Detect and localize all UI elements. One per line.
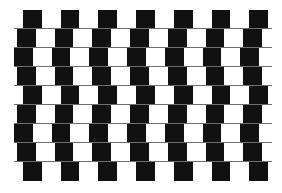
- black-tile: [174, 10, 193, 29]
- black-tile: [206, 105, 225, 124]
- black-tile: [17, 143, 36, 162]
- black-tile: [243, 29, 262, 48]
- black-tile: [203, 48, 222, 67]
- black-tile: [17, 67, 36, 86]
- black-tile: [168, 67, 187, 86]
- black-tile: [206, 67, 225, 86]
- black-tile: [203, 124, 222, 143]
- black-tile: [89, 48, 108, 67]
- black-tile: [130, 67, 149, 86]
- black-tile: [92, 67, 111, 86]
- black-tile: [240, 124, 259, 143]
- black-tile: [17, 105, 36, 124]
- black-tile: [249, 10, 268, 29]
- black-tile: [136, 86, 155, 105]
- black-tile: [17, 29, 36, 48]
- black-tile: [136, 162, 155, 181]
- black-tile: [174, 162, 193, 181]
- black-tile: [52, 124, 71, 143]
- black-tile: [23, 162, 42, 181]
- black-tile: [168, 29, 187, 48]
- black-tile: [14, 124, 33, 143]
- black-tile: [92, 29, 111, 48]
- black-tile: [165, 48, 184, 67]
- black-tile: [136, 10, 155, 29]
- black-tile: [14, 48, 33, 67]
- black-tile: [249, 162, 268, 181]
- black-tile: [168, 143, 187, 162]
- black-tile: [249, 86, 268, 105]
- black-tile: [130, 29, 149, 48]
- black-tile: [212, 86, 231, 105]
- black-tile: [243, 67, 262, 86]
- black-tile: [55, 67, 74, 86]
- black-tile: [23, 10, 42, 29]
- black-tile: [168, 105, 187, 124]
- black-tile: [61, 86, 80, 105]
- black-tile: [243, 143, 262, 162]
- black-tile: [55, 29, 74, 48]
- black-tile: [92, 105, 111, 124]
- black-tile: [52, 48, 71, 67]
- black-tile: [212, 162, 231, 181]
- black-tile: [98, 86, 117, 105]
- black-tile: [130, 105, 149, 124]
- black-tile: [98, 162, 117, 181]
- black-tile: [61, 162, 80, 181]
- black-tile: [55, 105, 74, 124]
- black-tile: [243, 105, 262, 124]
- black-tile: [127, 48, 146, 67]
- black-tile: [98, 10, 117, 29]
- black-tile: [55, 143, 74, 162]
- black-tile: [240, 48, 259, 67]
- cafe-wall-illusion: [0, 0, 282, 193]
- black-tile: [130, 143, 149, 162]
- black-tile: [174, 86, 193, 105]
- black-tile: [92, 143, 111, 162]
- black-tile: [212, 10, 231, 29]
- black-tile: [165, 124, 184, 143]
- black-tile: [23, 86, 42, 105]
- black-tile: [206, 143, 225, 162]
- black-tile: [89, 124, 108, 143]
- black-tile: [127, 124, 146, 143]
- black-tile: [206, 29, 225, 48]
- black-tile: [61, 10, 80, 29]
